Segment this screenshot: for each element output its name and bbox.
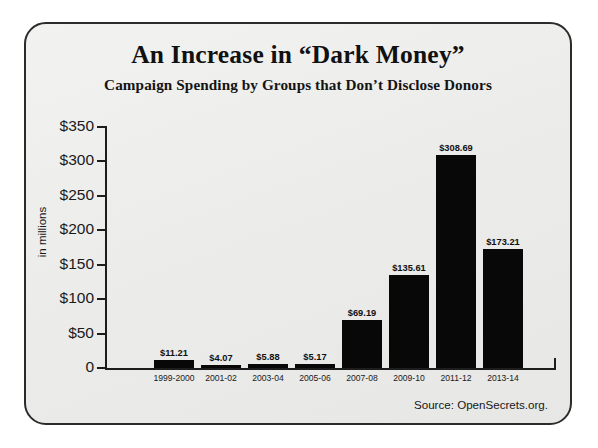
bar-value-label: $135.61 [372,263,446,273]
bar [342,320,382,368]
bar [201,365,241,368]
bar-value-label: $308.69 [419,143,493,153]
plot-area: 0$50$100$150$200$250$300$350 in millions… [26,24,572,425]
bar [389,275,429,368]
bar-value-label: $173.21 [466,237,540,247]
poster-card: An Increase in “Dark Money” Campaign Spe… [24,22,572,425]
bar [295,364,335,368]
bar [436,155,476,368]
bar [248,364,288,368]
source-attribution: Source: OpenSecrets.org. [414,398,548,411]
chart-screenshot: An Increase in “Dark Money” Campaign Spe… [0,0,598,448]
bar-value-label: $5.17 [278,352,352,362]
bar [483,249,523,368]
bar-series: $11.211999-2000$4.072001-02$5.882003-04$… [26,24,572,425]
bar-value-label: $69.19 [325,308,399,318]
x-axis-category-label: 2013-14 [472,373,534,383]
